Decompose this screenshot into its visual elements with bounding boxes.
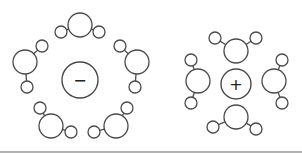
clusters: −+	[13, 13, 288, 138]
cation-hydration-shell: +	[185, 32, 288, 135]
hydrogen-atom	[93, 26, 105, 38]
o-h-bond	[135, 74, 136, 81]
oxygen-atom	[68, 13, 92, 37]
o-h-bond	[100, 129, 105, 130]
anion-hydration-shell: −	[13, 13, 149, 138]
water-molecule	[34, 102, 77, 138]
o-h-bond	[278, 92, 280, 97]
hydrogen-atom	[209, 32, 221, 44]
hydrogen-atom	[250, 32, 262, 44]
hydrogen-atom	[114, 40, 126, 52]
water-molecule	[55, 13, 105, 38]
oxygen-atom	[13, 50, 37, 74]
water-molecule	[88, 102, 133, 138]
water-molecule	[209, 32, 262, 63]
water-molecule	[114, 40, 149, 93]
hydrogen-atom	[55, 26, 67, 38]
o-h-bond	[124, 50, 128, 54]
oxygen-atom	[224, 39, 248, 63]
o-h-bond	[193, 92, 195, 97]
o-h-bond	[26, 74, 27, 81]
o-h-bond	[219, 122, 225, 125]
water-molecule	[262, 54, 288, 109]
oxygen-atom	[125, 50, 149, 74]
negative-charge-symbol: −	[73, 71, 86, 90]
o-h-bond	[34, 50, 38, 54]
hydrogen-atom	[207, 121, 219, 133]
hydrogen-atom	[65, 126, 77, 138]
oxygen-atom	[104, 114, 128, 138]
hydrogen-atom	[185, 97, 197, 109]
oxygen-atom	[262, 69, 286, 93]
hydrogen-atom	[185, 54, 197, 66]
hydrogen-atom	[276, 54, 288, 66]
oxygen-atom	[39, 114, 63, 138]
hydration-diagram: −+	[0, 0, 302, 153]
hydrogen-atom	[121, 102, 133, 114]
hydrogen-atom	[88, 126, 100, 138]
hydrogen-atom	[21, 81, 33, 93]
hydrogen-atom	[250, 123, 262, 135]
o-h-bond	[278, 66, 280, 70]
oxygen-atom	[224, 105, 248, 129]
o-h-bond	[246, 123, 251, 126]
o-h-bond	[246, 41, 251, 44]
water-molecule	[185, 54, 210, 109]
water-molecule	[13, 40, 48, 93]
o-h-bond	[220, 41, 226, 45]
hydrogen-atom	[34, 102, 46, 114]
hydrogen-atom	[276, 97, 288, 109]
positive-charge-symbol: +	[229, 75, 242, 94]
hydrogen-atom	[129, 81, 141, 93]
oxygen-atom	[186, 69, 210, 93]
hydrogen-atom	[36, 40, 48, 52]
water-molecule	[207, 105, 262, 135]
